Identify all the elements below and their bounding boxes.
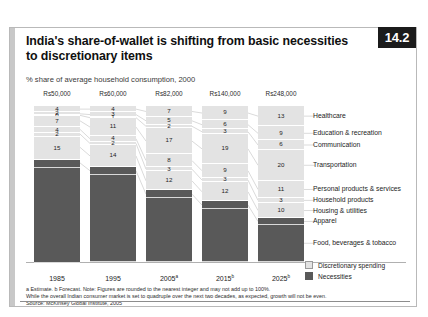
bar-segment: 13 bbox=[258, 106, 304, 126]
category-label: Communication bbox=[313, 141, 360, 148]
bar-segment: 11 bbox=[90, 118, 136, 135]
exhibit-panel: 14.2 India's share-of-wallet is shifting… bbox=[9, 27, 417, 307]
segment-value: 9 bbox=[223, 109, 226, 115]
category-label: Apparel bbox=[313, 217, 336, 224]
segment-value: 6 bbox=[279, 141, 282, 147]
x-axis-label: 2025b bbox=[253, 274, 309, 282]
footnotes: a Estimate. b Forecast. Note: Figures ar… bbox=[26, 286, 406, 308]
category-label: Education & recreation bbox=[313, 129, 382, 136]
bar-column: 42074215 bbox=[34, 106, 80, 262]
legend-item-necessities: Necessities bbox=[305, 272, 385, 280]
bar-column: 752178312 bbox=[146, 106, 192, 262]
bar-segment bbox=[90, 167, 136, 175]
bar-segment bbox=[146, 198, 192, 262]
bar-column: 963199312 bbox=[202, 106, 248, 262]
category-label: Healthcare bbox=[313, 112, 346, 119]
exhibit-number-badge: 14.2 bbox=[378, 27, 416, 48]
category-label: Personal products & services bbox=[313, 185, 401, 192]
x-axis-label: 2005a bbox=[141, 274, 197, 282]
bar-segment: 15 bbox=[34, 137, 80, 160]
bar-segment: 20 bbox=[258, 150, 304, 181]
bar-segment bbox=[34, 168, 80, 263]
segment-value: 9 bbox=[223, 167, 226, 173]
bar-segment: 10 bbox=[258, 203, 304, 219]
legend-item-discretionary: Discretionary spending bbox=[305, 261, 385, 269]
segment-value: 11 bbox=[278, 186, 284, 192]
category-label: Housing & utilities bbox=[313, 207, 367, 214]
category-label: Food, beverages & tobacco bbox=[313, 239, 396, 246]
bar-segment: 17 bbox=[146, 128, 192, 155]
segment-value: 12 bbox=[166, 177, 173, 183]
segment-value: 13 bbox=[278, 113, 285, 119]
segment-value: 9 bbox=[279, 130, 282, 136]
accent-bar bbox=[10, 28, 15, 306]
segment-value: 17 bbox=[166, 137, 173, 143]
category-label: Transportation bbox=[313, 161, 357, 168]
legend-label-necessities: Necessities bbox=[318, 273, 352, 280]
segment-value: 19 bbox=[222, 145, 229, 151]
footnote-line-2: While the overall Indian consumer market… bbox=[26, 293, 406, 300]
segment-value: 11 bbox=[110, 123, 116, 129]
segment-value: 15 bbox=[54, 145, 61, 151]
category-labels: HealthcareEducation & recreationCommunic… bbox=[301, 90, 419, 270]
bar-segment bbox=[202, 201, 248, 209]
page-title: India's share-of-wallet is shifting from… bbox=[26, 34, 356, 64]
segment-value: 12 bbox=[222, 188, 229, 194]
segment-value: 10 bbox=[278, 207, 285, 213]
category-label: Household products bbox=[313, 196, 373, 203]
bar-segment bbox=[34, 160, 80, 168]
x-axis-label: 1995 bbox=[85, 275, 141, 282]
bar-segment bbox=[258, 225, 304, 262]
segment-value: 8 bbox=[167, 157, 170, 163]
legend-swatch-necessities-icon bbox=[305, 272, 313, 280]
bar-segment: 14 bbox=[90, 145, 136, 167]
segment-value: 14 bbox=[110, 152, 117, 158]
column-header: Rs50,000 bbox=[29, 90, 85, 97]
chart-legend: Discretionary spending Necessities bbox=[305, 261, 385, 283]
footnote-line-1: a Estimate. b Forecast. Note: Figures ar… bbox=[26, 286, 406, 293]
bar-segment: 19 bbox=[202, 134, 248, 164]
segment-value: 7 bbox=[167, 108, 170, 114]
chart-subtitle: % share of average household consumption… bbox=[26, 75, 195, 84]
segment-value: 7 bbox=[55, 118, 58, 124]
x-axis-label: 1985 bbox=[29, 275, 85, 282]
bar-segment bbox=[146, 190, 192, 198]
legend-swatch-discretionary-icon bbox=[305, 261, 313, 269]
bar-segment bbox=[202, 209, 248, 262]
bar-segment: 9 bbox=[258, 126, 304, 140]
bar-segment: 12 bbox=[202, 182, 248, 201]
bar-segment: 6 bbox=[258, 140, 304, 149]
column-header: Rs140,000 bbox=[197, 90, 253, 97]
column-header: Rs82,000 bbox=[141, 90, 197, 97]
legend-label-discretionary: Discretionary spending bbox=[318, 262, 385, 269]
bar-column: 431114214 bbox=[90, 106, 136, 262]
bar-segment bbox=[90, 175, 136, 262]
segment-value: 20 bbox=[278, 162, 285, 168]
bar-segment: 9 bbox=[202, 106, 248, 120]
bottom-rule bbox=[20, 301, 410, 302]
bar-column: 13962011310 bbox=[258, 106, 304, 262]
bar-segment: 12 bbox=[146, 171, 192, 190]
x-axis-label: 2015b bbox=[197, 274, 253, 282]
column-header: Rs60,000 bbox=[85, 90, 141, 97]
